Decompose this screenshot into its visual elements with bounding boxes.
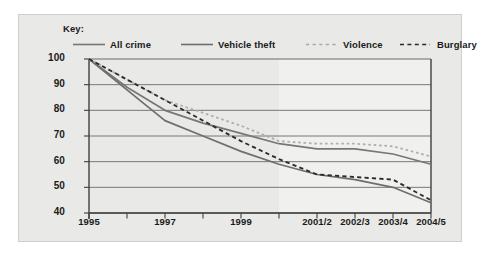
x-axis-tick-label: 2002/3 [340, 216, 370, 227]
legend-item-all-crime: All crime [73, 38, 151, 51]
legend-swatch-all-crime [73, 41, 105, 48]
x-axis-tick-label: 1997 [154, 216, 176, 227]
x-axis-tick-label: 2003/4 [378, 216, 408, 227]
legend-item-burglary: Burglary [400, 38, 477, 51]
legend-label-vehicle-theft: Vehicle theft [218, 39, 275, 50]
legend-swatch-violence [306, 41, 338, 48]
legend-swatch-vehicle-theft [181, 41, 213, 48]
legend-label-all-crime: All crime [110, 39, 151, 50]
y-axis-tick-label: 50 [39, 180, 65, 191]
chart-figure: Key: All crime Vehicle theft Violence Bu… [18, 14, 462, 242]
y-axis-tick-label: 40 [39, 206, 65, 217]
y-axis-labels: 100908070605040 [33, 57, 65, 213]
legend-swatch-burglary [400, 41, 432, 48]
chart-plot-area [71, 57, 433, 213]
x-axis-tick-label: 2001/2 [302, 216, 332, 227]
x-axis-tick-label: 2004/5 [416, 216, 446, 227]
y-axis-tick-label: 100 [39, 52, 65, 63]
chart-legend: Key: All crime Vehicle theft Violence Bu… [63, 23, 453, 55]
legend-title: Key: [63, 23, 84, 34]
x-axis-tick-label: 1999 [230, 216, 252, 227]
y-axis-tick-label: 60 [39, 155, 65, 166]
legend-item-violence: Violence [306, 38, 383, 51]
y-axis-tick-label: 90 [39, 78, 65, 89]
x-axis-labels: 1995199719992001/22002/32003/42004/5 [71, 216, 433, 232]
legend-label-burglary: Burglary [437, 39, 477, 50]
y-axis-tick-label: 70 [39, 129, 65, 140]
chart-svg [71, 57, 433, 227]
legend-label-violence: Violence [343, 39, 383, 50]
y-axis-tick-label: 80 [39, 103, 65, 114]
x-axis-tick-label: 1995 [78, 216, 100, 227]
legend-item-vehicle-theft: Vehicle theft [181, 38, 275, 51]
